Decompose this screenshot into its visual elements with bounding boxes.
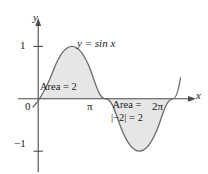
y-axis-label: y: [33, 12, 38, 23]
sine-area-figure: y x 1 −1 0 π 2π y = sin x Area = 2 Area …: [0, 0, 208, 174]
area-label-positive-lobe: Area = 2: [40, 82, 77, 93]
plot-canvas: [0, 0, 208, 174]
x-axis-label: x: [196, 90, 201, 101]
area-label-negative-line1: Area =: [113, 99, 142, 110]
y-tick-label-1: 1: [20, 40, 26, 51]
origin-label: 0: [25, 101, 31, 112]
area-label-negative-line2: |−2| = 2: [103, 113, 151, 124]
curve-equation-label: y = sin x: [77, 38, 115, 49]
x-tick-label-pi: π: [87, 101, 93, 112]
area-label-negative-lobe: Area = |−2| = 2: [103, 100, 151, 123]
x-axis-arrowhead: [188, 96, 196, 102]
y-tick-label-negative-1: −1: [14, 138, 26, 149]
x-tick-label-2pi: 2π: [152, 101, 163, 112]
